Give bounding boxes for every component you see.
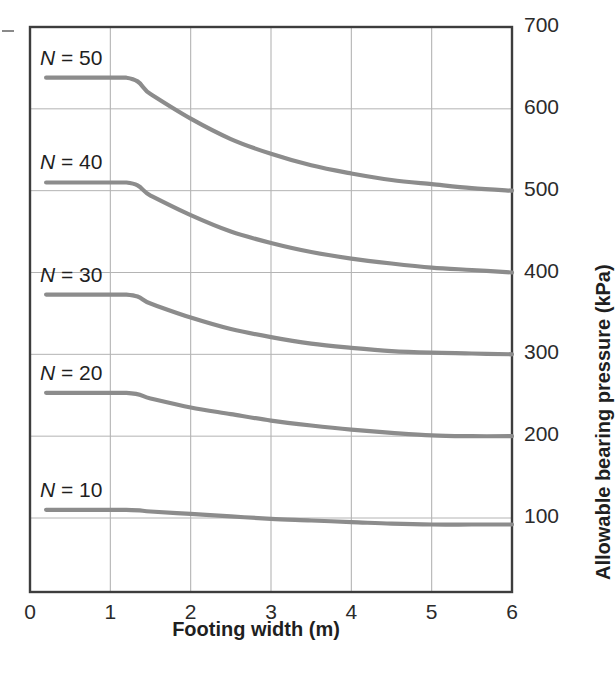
gridlines xyxy=(30,27,512,592)
curve-label-variable: N xyxy=(40,263,55,286)
curve-n40 xyxy=(46,183,512,273)
y-tick-label: 300 xyxy=(524,340,559,364)
curve-n20 xyxy=(46,393,512,436)
y-tick-label: 400 xyxy=(524,259,559,283)
y-tick-label: 200 xyxy=(524,422,559,446)
curve-label-n20: N = 20 xyxy=(40,361,102,385)
curve-n50 xyxy=(46,78,512,191)
curve-label-value: = 30 xyxy=(55,263,102,286)
curve-label-n50: N = 50 xyxy=(40,46,102,70)
curve-label-value: = 50 xyxy=(55,46,102,69)
curve-label-value: = 20 xyxy=(55,361,102,384)
curve-label-variable: N xyxy=(40,150,55,173)
y-tick-label: 100 xyxy=(524,504,559,528)
curve-label-n40: N = 40 xyxy=(40,150,102,174)
y-tick-label: 500 xyxy=(524,177,559,201)
y-axis-title: Allowable bearing pressure (kPa) xyxy=(592,264,615,580)
curve-n10 xyxy=(46,510,512,525)
curve-label-variable: N xyxy=(40,361,55,384)
curve-label-variable: N xyxy=(40,46,55,69)
y-tick-label: 600 xyxy=(524,95,559,119)
curve-label-value: = 10 xyxy=(55,478,102,501)
curve-n30 xyxy=(46,295,512,355)
curve-label-variable: N xyxy=(40,478,55,501)
curve-label-n30: N = 30 xyxy=(40,263,102,287)
curve-group xyxy=(46,78,512,525)
y-tick-label: 700 xyxy=(524,13,559,37)
x-axis-title: Footing width (m) xyxy=(0,618,512,641)
curve-label-value: = 40 xyxy=(55,150,102,173)
curve-label-n10: N = 10 xyxy=(40,478,102,502)
